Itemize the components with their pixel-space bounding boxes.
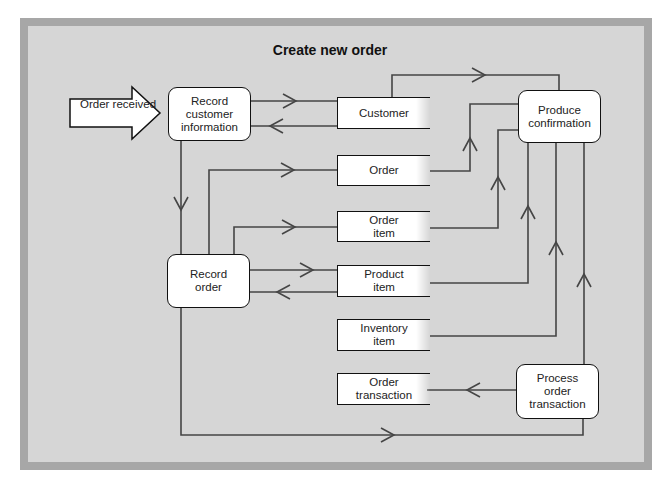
process-record-order: Record order — [167, 254, 250, 308]
data-store-customer: Customer — [337, 97, 430, 129]
process-produce-confirmation: Produce confirmation — [518, 90, 601, 143]
diagram-title: Create new order — [230, 42, 430, 58]
data-store-inventory-item: Inventory item — [337, 319, 430, 351]
process-record-customer-information: Record customer information — [168, 87, 251, 141]
data-store-product-item: Product item — [337, 265, 430, 297]
data-store-order-item: Order item — [337, 211, 430, 242]
external-input-order-received: Order received — [70, 98, 162, 110]
data-store-order: Order — [337, 155, 430, 186]
process-order-transaction: Process order transaction — [516, 364, 599, 419]
data-store-order-transaction: Order transaction — [337, 373, 430, 405]
